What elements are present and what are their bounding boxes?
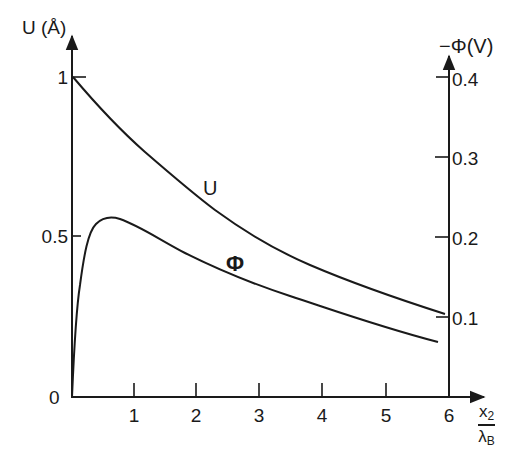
x-axis-den-sub: B xyxy=(487,434,495,448)
x-axis-label-denominator: λB xyxy=(478,426,495,448)
y-right-ticks xyxy=(435,77,449,317)
y-left-ticks xyxy=(72,77,86,236)
x-axis-label-numerator: x2 xyxy=(478,402,495,426)
y-left-tick-1: 1 xyxy=(57,68,68,87)
y-left-axis-label: U (Å) xyxy=(22,18,66,37)
x-tick-3: 3 xyxy=(254,406,265,425)
x-tick-6: 6 xyxy=(444,406,455,425)
x-ticks xyxy=(134,383,386,397)
x-axis-num-sub: 2 xyxy=(488,409,495,423)
x-axis-num-text: x xyxy=(479,402,488,421)
y-right-axis-label: −Φ(V) xyxy=(439,36,493,56)
x-tick-5: 5 xyxy=(381,406,392,425)
curve-u-label: U xyxy=(203,178,217,198)
origin-label: 0 xyxy=(49,388,60,407)
x-tick-2: 2 xyxy=(191,406,202,425)
chart-canvas xyxy=(0,0,524,460)
x-tick-1: 1 xyxy=(129,406,140,425)
x-tick-4: 4 xyxy=(317,406,328,425)
y-right-tick-0.1: 0.1 xyxy=(452,309,478,328)
y-right-tick-0.4: 0.4 xyxy=(452,70,478,89)
x-axis-den-text: λ xyxy=(478,427,487,446)
x-axis-label: x2 λB xyxy=(478,402,495,448)
y-left-tick-0.5: 0.5 xyxy=(42,227,68,246)
curve-phi xyxy=(72,218,438,397)
y-right-tick-0.3: 0.3 xyxy=(452,149,478,168)
curve-u xyxy=(73,77,445,314)
curve-phi-label: Φ xyxy=(226,253,244,275)
y-right-tick-0.2: 0.2 xyxy=(452,229,478,248)
